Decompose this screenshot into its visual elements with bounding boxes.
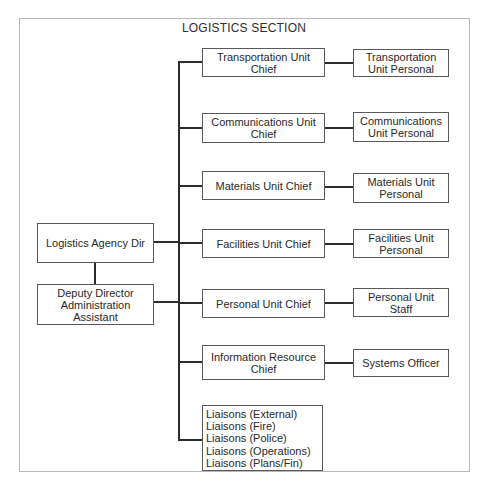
personal-unit-chief-box: Personal Unit Chief — [202, 289, 325, 318]
staff-connector-materials — [325, 186, 353, 188]
materials-unit-personal-box: Materials Unit Personal — [353, 173, 449, 203]
deputy-director-box: Deputy Director Administration Assistant — [37, 284, 154, 325]
staff-line-1: Personal Unit — [368, 291, 434, 303]
deputy-connector — [154, 301, 180, 303]
branch-connector-transportation — [178, 61, 202, 63]
staff-line-1: Facilities Unit — [368, 232, 433, 244]
branch-connector-liaisons — [178, 439, 202, 441]
communications-unit-personal-box: Communications Unit Personal — [353, 112, 449, 142]
director-box: Logistics Agency Dir — [37, 223, 154, 263]
staff-line-2: Unit Personal — [368, 127, 434, 139]
deputy-line-1: Deputy Director — [57, 287, 133, 299]
staff-line-1: Materials Unit — [367, 176, 434, 188]
transportation-unit-personal-box: Transportation Unit Personal — [353, 49, 449, 77]
chief-line-1: Materials Unit Chief — [216, 180, 312, 192]
director-deputy-connector — [94, 263, 96, 284]
liaison-fire: Liaisons (Fire) — [206, 420, 319, 432]
communications-unit-chief-box: Communications Unit Chief — [202, 113, 325, 143]
materials-unit-chief-box: Materials Unit Chief — [202, 171, 325, 200]
branch-connector-personal — [178, 302, 202, 304]
staff-line-1: Systems Officer — [362, 357, 439, 369]
branch-connector-facilities — [178, 242, 202, 244]
facilities-unit-personal-box: Facilities Unit Personal — [353, 229, 449, 258]
systems-officer-box: Systems Officer — [353, 349, 449, 377]
staff-connector-communications — [325, 127, 353, 129]
chief-line-1: Communications Unit — [211, 116, 316, 128]
staff-line-2: Personal — [379, 188, 422, 200]
trunk-connector — [178, 61, 180, 441]
liaison-operations: Liaisons (Operations) — [206, 445, 319, 457]
staff-connector-personal — [325, 302, 353, 304]
facilities-unit-chief-box: Facilities Unit Chief — [202, 229, 325, 258]
information-resource-chief-box: Information Resource Chief — [202, 345, 325, 380]
branch-connector-materials — [178, 185, 202, 187]
staff-connector-facilities — [325, 243, 353, 245]
liaison-police: Liaisons (Police) — [206, 432, 319, 444]
deputy-line-3: Assistant — [73, 311, 118, 323]
director-connector — [154, 241, 180, 243]
staff-line-2: Personal — [379, 244, 422, 256]
branch-connector-communications — [178, 127, 202, 129]
chief-line-1: Transportation Unit — [217, 51, 310, 63]
chief-line-1: Personal Unit Chief — [216, 298, 311, 310]
liaisons-box: Liaisons (External) Liaisons (Fire) Liai… — [202, 405, 323, 471]
staff-line-1: Transportation — [366, 51, 437, 63]
liaison-plans-fin: Liaisons (Plans/Fin) — [206, 457, 319, 469]
staff-line-2: Staff — [390, 303, 412, 315]
chief-line-2: Chief — [251, 63, 277, 75]
branch-connector-information — [178, 361, 202, 363]
deputy-line-2: Administration — [61, 299, 131, 311]
staff-connector-information — [325, 362, 353, 364]
staff-line-1: Communications — [360, 115, 442, 127]
chart-title: LOGISTICS SECTION — [0, 21, 488, 35]
liaison-external: Liaisons (External) — [206, 408, 319, 420]
director-label: Logistics Agency Dir — [46, 237, 145, 249]
chief-line-1: Information Resource — [211, 351, 316, 363]
transportation-unit-chief-box: Transportation Unit Chief — [202, 48, 325, 77]
staff-line-2: Unit Personal — [368, 63, 434, 75]
chief-line-2: Chief — [251, 128, 277, 140]
chief-line-2: Chief — [251, 363, 277, 375]
chief-line-1: Facilities Unit Chief — [216, 238, 310, 250]
staff-connector-transportation — [325, 62, 353, 64]
personal-unit-staff-box: Personal Unit Staff — [353, 288, 449, 317]
